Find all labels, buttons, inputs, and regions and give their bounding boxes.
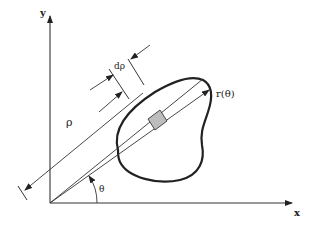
d-rho-arrow-inner-upper [90, 75, 113, 90]
rho-tick-start [18, 186, 27, 200]
d-rho-arrow-outer [131, 45, 150, 59]
axes: y x [39, 7, 301, 218]
rho-label: ρ [66, 116, 72, 129]
theta-label: θ [99, 184, 104, 194]
ray-upper [50, 79, 203, 203]
ray-lower-r-theta [50, 90, 209, 203]
y-axis-label: y [39, 7, 47, 18]
x-axis-label: x [294, 207, 301, 218]
curve-label: r(θ) [216, 88, 235, 99]
polar-area-diagram: y x r(θ) ρ dρ θ [0, 0, 314, 225]
rho-dimension: ρ [18, 93, 143, 200]
theta-angle: θ [89, 176, 104, 203]
d-rho-tick-outer [128, 59, 144, 85]
d-rho-arrow-inner-lower [99, 92, 122, 112]
area-element-shaded [148, 110, 167, 130]
region-boundary-curve [117, 78, 211, 182]
theta-arc [89, 176, 97, 203]
wedge-rays [50, 79, 209, 203]
d-rho-label: dρ [114, 61, 125, 71]
